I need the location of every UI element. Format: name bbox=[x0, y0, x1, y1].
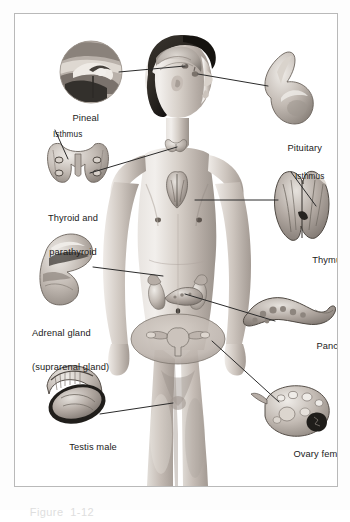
label-adrenal-line1: Adrenal gland bbox=[32, 328, 109, 339]
pituitary-inset bbox=[265, 52, 313, 124]
label-thyroid-line1: Thyroid and bbox=[23, 213, 123, 224]
label-isthmus-thyroid-text: Isthmus bbox=[53, 130, 82, 139]
label-testis-male-text: Testis male bbox=[69, 442, 117, 452]
label-pituitary: Pituitary bbox=[266, 132, 322, 166]
label-isthmus-thymus-text: Isthmus bbox=[295, 172, 324, 181]
figure-caption-text: Figure 1-12 bbox=[30, 506, 94, 518]
label-ovary-female-text: Ovary female bbox=[293, 449, 338, 459]
ovary-inset bbox=[251, 386, 329, 437]
figure-caption: Figure 1-12 bbox=[16, 494, 94, 522]
label-adrenal-line2: (suprarenal gland) bbox=[32, 362, 109, 373]
label-testis-male: Testis male bbox=[48, 431, 117, 465]
label-thyroid-parathyroid: Thyroid and parathyroid bbox=[23, 191, 123, 281]
pancreas-inset bbox=[243, 298, 335, 326]
ovary-site-marker bbox=[131, 314, 225, 364]
label-isthmus-thyroid: Isthmus bbox=[34, 120, 82, 150]
label-pituitary-text: Pituitary bbox=[287, 143, 321, 153]
label-isthmus-thymus: Isthmus bbox=[276, 162, 324, 192]
label-pancreas-text: Pancreas bbox=[316, 341, 338, 351]
label-thymus: Thymus bbox=[291, 244, 338, 278]
ovary-leader-line bbox=[212, 341, 279, 402]
figure-frame: Pineal Isthmus Thyroid and parathyroid A… bbox=[14, 13, 338, 487]
label-pancreas: Pancreas bbox=[295, 330, 338, 364]
label-thyroid-line2: parathyroid bbox=[23, 247, 123, 258]
body-figure-group bbox=[103, 35, 251, 486]
label-ovary-female: Ovary female bbox=[272, 438, 338, 472]
label-adrenal-gland: Adrenal gland (suprarenal gland) bbox=[32, 306, 109, 396]
label-thymus-text: Thymus bbox=[312, 255, 338, 265]
illustration-stage: Pineal Isthmus Thyroid and parathyroid A… bbox=[15, 14, 337, 486]
pineal-inset bbox=[60, 41, 122, 103]
